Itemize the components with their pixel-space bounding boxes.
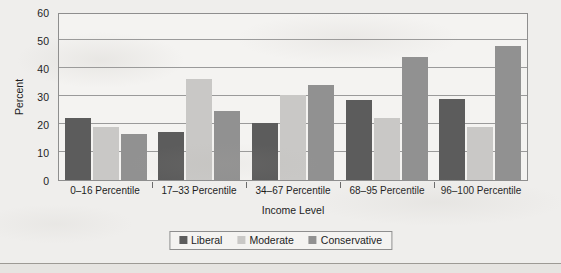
y-axis-tick-label: 30	[37, 92, 49, 103]
page-bottom-band	[0, 264, 561, 273]
plot-area	[58, 13, 528, 181]
x-axis-category-label: 0–16 Percentile	[58, 183, 152, 199]
bar-conservative[interactable]	[495, 46, 521, 180]
bar-conservative[interactable]	[402, 57, 428, 180]
bar-liberal[interactable]	[439, 99, 465, 180]
x-axis-title: Income Level	[58, 204, 528, 216]
bar-conservative[interactable]	[214, 111, 240, 180]
bar-moderate[interactable]	[280, 95, 306, 180]
bar-group	[340, 14, 434, 180]
x-axis-category-label: 17–33 Percentile	[152, 183, 246, 199]
legend-label: Conservative	[321, 235, 382, 246]
legend-swatch-icon	[237, 236, 245, 244]
bar-moderate[interactable]	[467, 127, 493, 180]
y-axis-tick-label: 20	[37, 120, 49, 131]
bar-chart-figure: 0102030405060 Percent 0–16 Percentile17–…	[0, 0, 561, 273]
bar-moderate[interactable]	[93, 127, 119, 180]
x-axis-category-label: 68–95 Percentile	[340, 183, 434, 199]
legend-item[interactable]: Moderate	[237, 235, 293, 246]
legend-label: Liberal	[191, 235, 223, 246]
bar-moderate[interactable]	[374, 118, 400, 180]
bar-group	[246, 14, 340, 180]
legend-item[interactable]: Conservative	[309, 235, 382, 246]
y-axis-tick-label: 0	[43, 176, 49, 187]
y-axis-tick-label: 40	[37, 64, 49, 75]
x-axis-category-label: 96–100 Percentile	[434, 183, 528, 199]
bar-group	[153, 14, 247, 180]
bar-moderate[interactable]	[186, 79, 212, 180]
legend-item[interactable]: Liberal	[179, 235, 223, 246]
y-axis-title: Percent	[13, 79, 25, 115]
legend-label: Moderate	[249, 235, 293, 246]
x-axis-category-label: 34–67 Percentile	[246, 183, 340, 199]
y-axis-tick-label: 10	[37, 148, 49, 159]
chart-legend: LiberalModerateConservative	[169, 231, 392, 250]
bar-liberal[interactable]	[346, 100, 372, 180]
y-axis-ticks: 0102030405060	[0, 13, 54, 181]
bar-groups	[59, 14, 527, 180]
bar-group	[59, 14, 153, 180]
legend-swatch-icon	[309, 236, 317, 244]
bar-liberal[interactable]	[65, 118, 91, 180]
y-axis-tick-label: 50	[37, 36, 49, 47]
y-axis-tick-label: 60	[37, 8, 49, 19]
legend-swatch-icon	[179, 236, 187, 244]
bar-liberal[interactable]	[158, 132, 184, 180]
bar-liberal[interactable]	[252, 123, 278, 180]
bar-conservative[interactable]	[121, 134, 147, 180]
bar-group	[433, 14, 527, 180]
bar-conservative[interactable]	[308, 85, 334, 180]
x-axis-labels: 0–16 Percentile17–33 Percentile34–67 Per…	[58, 183, 528, 199]
